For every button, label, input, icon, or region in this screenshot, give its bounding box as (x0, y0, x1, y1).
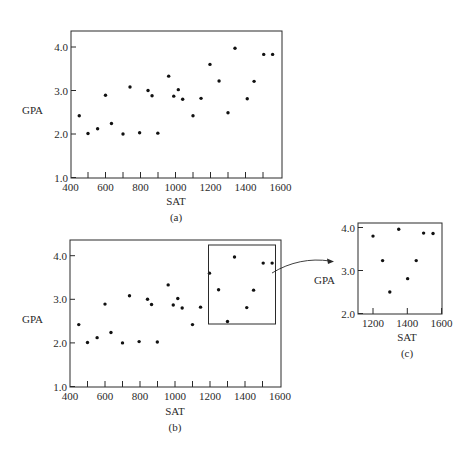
y-axis-ticks-a: 1.02.03.04.0 (54, 41, 76, 184)
data-point (167, 74, 170, 77)
y-axis-ticks-b: 1.02.03.04.0 (53, 250, 75, 393)
data-point (138, 131, 141, 134)
x-axis-ticks-b: 4006008001000120014001600 (62, 381, 292, 402)
figure: 1.02.03.04.0 4006008001000120014001600 G… (0, 0, 475, 466)
y-tick-label: 4.0 (341, 222, 355, 234)
data-point (86, 132, 89, 135)
data-point (191, 323, 194, 326)
data-point (271, 53, 274, 56)
data-point (422, 231, 425, 234)
data-point (96, 127, 99, 130)
data-point (172, 303, 175, 306)
caption-a: (a) (170, 211, 183, 224)
y-axis-label-b: GPA (22, 313, 43, 325)
x-tick-label: 1600 (270, 181, 293, 193)
data-point (252, 288, 255, 291)
data-point (128, 294, 131, 297)
data-point (245, 306, 248, 309)
data-point (176, 297, 179, 300)
data-point (121, 132, 124, 135)
x-tick-label: 600 (97, 390, 114, 402)
data-point (86, 341, 89, 344)
data-point (217, 79, 220, 82)
data-point (191, 114, 194, 117)
data-point (388, 290, 391, 293)
x-tick-label: 1600 (431, 317, 454, 329)
data-point (208, 63, 211, 66)
data-point (381, 259, 384, 262)
y-tick-label: 3.0 (341, 265, 355, 277)
scatter-panel-c: 2.03.04.0 120014001600 GPA SAT (c) (314, 222, 453, 361)
data-point (156, 340, 159, 343)
x-axis-ticks-a: 4006008001000120014001600 (62, 172, 292, 193)
data-point (150, 303, 153, 306)
y-tick-label: 3.0 (54, 85, 68, 97)
data-point (270, 261, 273, 264)
data-point (110, 122, 113, 125)
data-point (397, 228, 400, 231)
data-point (128, 85, 131, 88)
data-point (181, 98, 184, 101)
y-tick-label: 4.0 (54, 41, 68, 53)
data-point (199, 305, 202, 308)
scatter-panel-b: 1.02.03.04.0 4006008001000120014001600 G… (22, 240, 334, 434)
data-point (226, 111, 229, 114)
y-tick-label: 4.0 (53, 250, 67, 262)
data-point (252, 80, 255, 83)
data-point (177, 88, 180, 91)
data-point (103, 302, 106, 305)
data-point (233, 47, 236, 50)
data-point (415, 259, 418, 262)
plot-frame-a (71, 31, 282, 178)
data-point (121, 341, 124, 344)
data-point (172, 94, 175, 97)
arrowhead-icon (327, 259, 334, 265)
data-point (77, 323, 80, 326)
x-tick-label: 1400 (396, 317, 419, 329)
plot-frame-c (358, 223, 442, 314)
plot-frame-b (70, 240, 281, 387)
data-point (233, 255, 236, 258)
zoom-region-box (209, 245, 276, 324)
x-axis-ticks-c: 120014001600 (362, 308, 453, 329)
scatter-panel-a: 1.02.03.04.0 4006008001000120014001600 G… (22, 31, 292, 224)
x-tick-label: 1200 (199, 390, 222, 402)
data-point (95, 336, 98, 339)
x-tick-label: 1000 (165, 181, 188, 193)
data-point (262, 261, 265, 264)
data-point (217, 288, 220, 291)
data-point (109, 331, 112, 334)
data-point (146, 89, 149, 92)
x-tick-label: 1000 (164, 390, 187, 402)
data-point (146, 298, 149, 301)
data-point (371, 234, 374, 237)
x-axis-label-b: SAT (165, 405, 185, 417)
data-point (156, 131, 159, 134)
x-tick-label: 1400 (235, 181, 258, 193)
data-points-b (77, 255, 274, 344)
x-tick-label: 400 (62, 390, 79, 402)
data-point (406, 277, 409, 280)
y-tick-label: 2.0 (341, 308, 355, 320)
data-point (150, 94, 153, 97)
data-point (226, 320, 229, 323)
y-axis-ticks-c: 2.03.04.0 (341, 222, 363, 320)
data-point (431, 232, 434, 235)
data-point (137, 340, 140, 343)
data-points-c (371, 228, 434, 294)
x-axis-label-c: SAT (397, 331, 417, 343)
data-point (199, 97, 202, 100)
x-axis-label-a: SAT (166, 195, 186, 207)
x-tick-label: 1200 (362, 317, 385, 329)
y-axis-label-a: GPA (22, 104, 43, 116)
x-tick-label: 400 (62, 181, 79, 193)
y-axis-label-c: GPA (314, 274, 335, 286)
x-tick-label: 1200 (200, 181, 223, 193)
caption-b: (b) (169, 421, 182, 434)
data-points-a (78, 47, 275, 136)
data-point (180, 306, 183, 309)
data-point (104, 94, 107, 97)
x-tick-label: 600 (97, 181, 114, 193)
y-tick-label: 2.0 (54, 128, 68, 140)
x-tick-label: 1600 (269, 390, 292, 402)
